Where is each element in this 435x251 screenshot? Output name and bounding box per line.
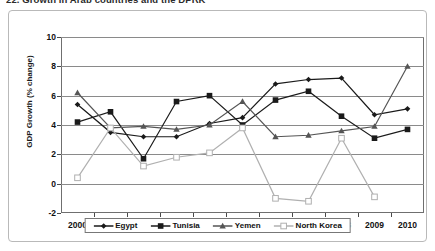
chart-screenshot: 22. Growth in Arab countries and the DPR… <box>0 0 435 251</box>
data-point-marker <box>108 109 114 115</box>
x-tick-mark <box>391 213 392 217</box>
x-tick-mark <box>160 213 161 217</box>
data-point-marker <box>174 154 180 160</box>
square-icon <box>150 221 170 231</box>
data-point-marker <box>108 125 114 131</box>
data-point-marker <box>207 150 213 156</box>
y-tick-label: -2 <box>48 208 56 218</box>
plot-area: -20246810 200020012002200320042005200620… <box>61 37 424 213</box>
open-square-icon <box>274 221 294 231</box>
diamond-icon <box>93 221 113 231</box>
x-tick-mark <box>127 213 128 217</box>
series-north-korea <box>75 125 378 204</box>
data-point-marker <box>158 223 164 229</box>
data-point-marker <box>371 123 377 129</box>
data-point-marker <box>74 90 80 96</box>
data-point-marker <box>141 163 147 169</box>
data-point-marker <box>75 119 81 125</box>
legend-item-tunisia[interactable]: Tunisia <box>150 221 199 231</box>
y-tick-label: 0 <box>51 179 56 189</box>
legend-label: Tunisia <box>172 221 199 230</box>
data-point-marker <box>306 88 312 94</box>
y-tick-mark <box>57 213 61 214</box>
data-point-marker <box>372 194 378 200</box>
data-point-marker <box>75 175 81 181</box>
x-tick-mark <box>94 213 95 217</box>
series-lines <box>61 37 424 213</box>
x-tick-mark <box>259 213 260 217</box>
y-tick-label: 4 <box>51 120 56 130</box>
data-point-marker <box>141 156 147 162</box>
data-point-marker <box>306 198 312 204</box>
chart-card: GDP Growth (% change) -20246810 20002001… <box>8 10 427 242</box>
y-tick-label: 10 <box>47 32 56 42</box>
data-point-marker <box>405 106 411 112</box>
legend-item-egypt[interactable]: Egypt <box>93 221 137 231</box>
data-point-marker <box>240 125 246 131</box>
legend-label: North Korea <box>296 221 342 230</box>
data-point-marker <box>281 223 287 229</box>
x-tick-mark <box>193 213 194 217</box>
data-point-marker <box>273 97 279 103</box>
legend-label: Egypt <box>115 221 137 230</box>
legend-label: Yemen <box>235 221 261 230</box>
y-tick-label: 6 <box>51 91 56 101</box>
figure-title: 22. Growth in Arab countries and the DPR… <box>6 0 426 6</box>
data-point-marker <box>174 99 180 105</box>
x-tick-mark <box>325 213 326 217</box>
data-point-marker <box>174 134 180 140</box>
x-tick-label: 2010 <box>398 220 417 230</box>
chart-legend: EgyptTunisiaYemenNorth Korea <box>84 218 351 233</box>
data-point-marker <box>273 196 279 202</box>
y-tick-label: 8 <box>51 61 56 71</box>
legend-item-north-korea[interactable]: North Korea <box>274 221 342 231</box>
data-point-marker <box>239 98 245 104</box>
data-point-marker <box>405 127 411 133</box>
data-point-marker <box>141 134 147 140</box>
data-point-marker <box>339 135 345 141</box>
y-axis-title: GDP Growth (% change) <box>25 37 34 167</box>
data-point-marker <box>100 223 106 229</box>
series-line <box>78 128 375 201</box>
x-tick-label: 2009 <box>365 220 384 230</box>
y-tick-label: 2 <box>51 149 56 159</box>
legend-item-yemen[interactable]: Yemen <box>213 221 261 231</box>
x-tick-mark <box>292 213 293 217</box>
data-point-marker <box>372 135 378 141</box>
data-point-marker <box>339 113 345 119</box>
data-point-marker <box>404 63 410 69</box>
triangle-icon <box>213 221 233 231</box>
x-tick-mark <box>226 213 227 217</box>
data-point-marker <box>207 93 213 99</box>
x-tick-mark <box>358 213 359 217</box>
data-point-marker <box>306 77 312 83</box>
